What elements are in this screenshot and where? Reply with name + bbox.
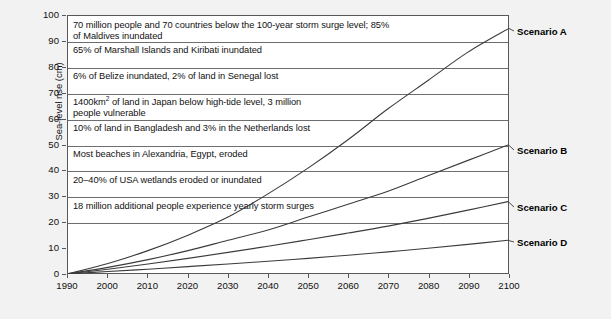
x-tick-label: 2050 [288, 280, 328, 291]
y-tick-label: 20 [33, 216, 59, 227]
y-tick-label: 100 [33, 9, 59, 20]
x-tick-label: 2100 [489, 280, 529, 291]
chart-figure: Sea-level rise (cm) 10090807060504030201… [0, 0, 611, 319]
scenario-label-c: Scenario C [517, 202, 567, 213]
scenario-label-b: Scenario B [517, 145, 567, 156]
x-tick-mark [188, 274, 189, 278]
x-tick-label: 2030 [208, 280, 248, 291]
x-tick-label: 2090 [449, 280, 489, 291]
series-lines [68, 16, 508, 274]
y-tick-label: 60 [33, 113, 59, 124]
x-tick-mark [67, 274, 68, 278]
y-tick-label: 90 [33, 35, 59, 46]
x-tick-label: 2000 [87, 280, 127, 291]
y-tick-mark [62, 93, 66, 94]
x-tick-mark [107, 274, 108, 278]
y-tick-label: 40 [33, 164, 59, 175]
series-line-scenario-d [68, 240, 508, 274]
x-tick-mark [228, 274, 229, 278]
y-tick-label: 0 [33, 268, 59, 279]
y-tick-mark [62, 196, 66, 197]
plot-area: 70 million people and 70 countries below… [67, 15, 509, 274]
y-tick-mark [62, 145, 66, 146]
y-tick-label: 10 [33, 242, 59, 253]
y-tick-mark [62, 67, 66, 68]
x-tick-mark [308, 274, 309, 278]
x-tick-label: 2010 [127, 280, 167, 291]
x-tick-label: 2040 [248, 280, 288, 291]
x-tick-mark [348, 274, 349, 278]
x-tick-label: 1990 [47, 280, 87, 291]
x-tick-label: 2080 [409, 280, 449, 291]
x-tick-mark [469, 274, 470, 278]
y-tick-mark [62, 41, 66, 42]
x-tick-label: 2070 [368, 280, 408, 291]
y-tick-mark [62, 170, 66, 171]
y-tick-label: 80 [33, 61, 59, 72]
x-tick-mark [429, 274, 430, 278]
y-tick-mark [62, 15, 66, 16]
x-tick-label: 2060 [328, 280, 368, 291]
y-tick-mark [62, 222, 66, 223]
x-tick-label: 2020 [168, 280, 208, 291]
y-tick-label: 70 [33, 87, 59, 98]
x-tick-mark [388, 274, 389, 278]
x-tick-mark [268, 274, 269, 278]
y-tick-label: 50 [33, 139, 59, 150]
y-tick-mark [62, 248, 66, 249]
scenario-label-d: Scenario D [517, 237, 567, 248]
series-line-scenario-a [68, 29, 508, 274]
y-tick-mark [62, 274, 66, 275]
x-tick-mark [509, 274, 510, 278]
series-line-scenario-b [68, 145, 508, 274]
y-tick-label: 30 [33, 190, 59, 201]
y-tick-mark [62, 119, 66, 120]
x-tick-mark [147, 274, 148, 278]
scenario-label-a: Scenario A [517, 26, 567, 37]
